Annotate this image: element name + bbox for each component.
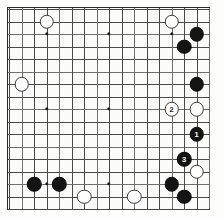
stone-black[interactable] bbox=[27, 177, 42, 192]
grid-line-horizontal bbox=[8, 9, 209, 10]
stone-black-move-3[interactable]: 3 bbox=[177, 152, 192, 167]
grid-line-vertical bbox=[122, 8, 123, 209]
star-point bbox=[45, 107, 48, 110]
stone-black[interactable] bbox=[189, 77, 204, 92]
star-point bbox=[107, 32, 110, 35]
grid-line-horizontal bbox=[8, 97, 209, 98]
stone-move-number: 1 bbox=[194, 130, 198, 138]
stone-white[interactable] bbox=[127, 189, 142, 204]
star-point bbox=[45, 32, 48, 35]
grid-line-vertical bbox=[72, 8, 73, 209]
grid-line-horizontal bbox=[8, 134, 209, 135]
grid-line-vertical bbox=[97, 8, 98, 209]
stone-move-number: 3 bbox=[182, 155, 186, 163]
stone-white[interactable] bbox=[164, 14, 179, 29]
stone-white[interactable] bbox=[189, 164, 204, 179]
grid-line-horizontal bbox=[8, 209, 209, 210]
go-board-diagram: 213 bbox=[0, 0, 224, 219]
stone-black[interactable] bbox=[177, 189, 192, 204]
stone-white-move-2[interactable]: 2 bbox=[164, 102, 179, 117]
grid-line-vertical bbox=[134, 8, 135, 209]
stone-white[interactable] bbox=[14, 77, 29, 92]
board-frame: 213 bbox=[7, 7, 210, 210]
stone-white[interactable] bbox=[39, 14, 54, 29]
grid-line-horizontal bbox=[8, 59, 209, 60]
grid-line-horizontal bbox=[8, 122, 209, 123]
grid-line-vertical bbox=[22, 8, 23, 209]
grid-line-horizontal bbox=[8, 72, 209, 73]
stone-black[interactable] bbox=[189, 27, 204, 42]
stone-white[interactable] bbox=[77, 189, 92, 204]
star-point bbox=[107, 182, 110, 185]
star-point bbox=[170, 32, 173, 35]
stone-move-number: 2 bbox=[169, 105, 173, 113]
stone-black-move-1[interactable]: 1 bbox=[189, 127, 204, 142]
grid-line-horizontal bbox=[8, 84, 209, 85]
grid-line-horizontal bbox=[8, 172, 209, 173]
stone-black[interactable] bbox=[177, 39, 192, 54]
stone-white[interactable] bbox=[189, 102, 204, 117]
stone-black[interactable] bbox=[52, 177, 67, 192]
grid-line-vertical bbox=[209, 8, 210, 209]
star-point bbox=[107, 107, 110, 110]
grid-line-horizontal bbox=[8, 147, 209, 148]
grid-line-vertical bbox=[159, 8, 160, 209]
grid-line-vertical bbox=[184, 8, 185, 209]
star-point bbox=[45, 182, 48, 185]
grid-line-vertical bbox=[9, 8, 10, 209]
grid-line-vertical bbox=[147, 8, 148, 209]
stone-black[interactable] bbox=[164, 177, 179, 192]
grid-line-vertical bbox=[84, 8, 85, 209]
